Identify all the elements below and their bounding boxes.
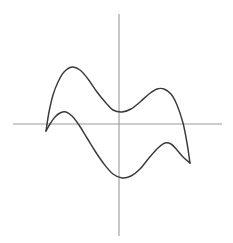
curve-group [46,67,190,178]
curve-lower-branch [46,112,190,178]
plot-figure [0,0,233,243]
plot-canvas [0,0,233,243]
axes-group [13,14,222,236]
curve-upper-branch [46,67,190,163]
